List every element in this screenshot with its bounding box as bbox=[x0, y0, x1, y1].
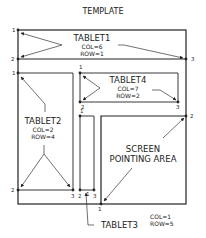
screen-point-2-marker bbox=[185, 115, 188, 118]
tablet3-box bbox=[80, 116, 94, 190]
tablet1-label: TABLET1 bbox=[73, 33, 111, 43]
tablet3-row: ROW=5 bbox=[150, 220, 174, 227]
tablet4-point-1: 1 bbox=[79, 64, 83, 70]
tablet1-col: COL=6 bbox=[81, 43, 102, 50]
screen-point-2: 2 bbox=[190, 113, 194, 119]
tablet4-point-2-marker bbox=[79, 101, 82, 104]
screen-arrow-p2 bbox=[163, 118, 184, 138]
tablet2-region: TABLET2 COL=2 ROW=4 1 2 3 bbox=[11, 70, 75, 199]
template-diagram: TEMPLATE TABLET1 COL=6 ROW=1 1 2 3 TABLE… bbox=[0, 0, 206, 238]
tablet2-point-1-marker bbox=[17, 72, 20, 75]
tablet4-arrow-p2 bbox=[83, 88, 100, 100]
tablet4-arrow-p3 bbox=[152, 90, 176, 100]
tablet4-col: COL=7 bbox=[117, 85, 138, 92]
diagram-title: TEMPLATE bbox=[81, 7, 123, 16]
tablet3-label: TABLET3 bbox=[100, 220, 138, 230]
tablet3-region: 1 2 3 1 TABLET3 COL=1 ROW=5 bbox=[78, 108, 174, 230]
tablet3-point-2-marker bbox=[79, 189, 82, 192]
tablet2-arrow-p1 bbox=[21, 77, 45, 112]
tablet2-label: TABLET2 bbox=[24, 116, 62, 126]
tablet2-arrow-p3 bbox=[44, 154, 70, 187]
tablet4-point-3: 3 bbox=[176, 104, 180, 110]
tablet1-region: TABLET1 COL=6 ROW=1 1 2 3 bbox=[11, 27, 195, 62]
tablet2-point-3: 3 bbox=[71, 193, 75, 199]
tablet1-point-2-marker bbox=[17, 58, 20, 61]
tablet2-row: ROW=4 bbox=[31, 133, 55, 140]
tablet3-point-3: 3 bbox=[93, 193, 97, 199]
tablet1-point-3: 3 bbox=[191, 56, 195, 62]
tablet3-point-1: 1 bbox=[80, 108, 84, 114]
tablet3-point-2: 2 bbox=[78, 193, 82, 199]
screen-area-line2: POINTING AREA bbox=[110, 154, 177, 164]
tablet1-point-2: 2 bbox=[11, 56, 15, 62]
tablet4-point-1-marker bbox=[79, 72, 82, 75]
screen-point-1: 1 bbox=[98, 206, 102, 212]
screen-area-line1: SCREEN bbox=[126, 144, 160, 154]
tablet3-col: COL=1 bbox=[150, 213, 171, 220]
tablet4-row: ROW=2 bbox=[116, 92, 140, 99]
tablet2-arrow-p2 bbox=[21, 154, 44, 187]
tablet3-point-3-marker bbox=[93, 189, 96, 192]
tablet1-arrow-p2 bbox=[21, 45, 62, 57]
tablet3-point-1-marker bbox=[79, 115, 82, 118]
tablet4-label: TABLET4 bbox=[109, 75, 147, 85]
screen-point-1-marker bbox=[100, 203, 103, 206]
tablet1-point-3-marker bbox=[185, 58, 188, 61]
tablet2-col: COL=2 bbox=[32, 126, 53, 133]
tablet1-point-1: 1 bbox=[12, 27, 16, 33]
tablet4-arrow-p1 bbox=[83, 76, 100, 88]
tablet2-point-1: 1 bbox=[12, 70, 16, 76]
tablet2-point-3-marker bbox=[72, 189, 75, 192]
tablet1-row: ROW=1 bbox=[80, 50, 104, 57]
tablet1-arrow-p3 bbox=[118, 45, 183, 58]
tablet1-point-1-marker bbox=[17, 29, 20, 32]
tablet4-region: TABLET4 COL=7 ROW=2 1 2 3 bbox=[79, 64, 180, 110]
tablet4-point-3-marker bbox=[177, 101, 180, 104]
tablet2-point-2-marker bbox=[17, 189, 20, 192]
tablet1-arrow-p1 bbox=[21, 33, 62, 45]
tablet2-point-2: 2 bbox=[11, 187, 15, 193]
screen-arrow-p1 bbox=[104, 168, 132, 201]
screen-pointing-area: SCREEN POINTING AREA 1 2 bbox=[98, 113, 194, 212]
